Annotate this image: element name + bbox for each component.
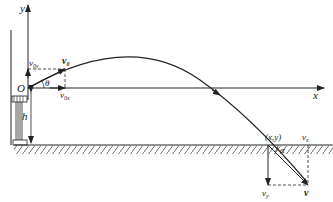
trajectory-direction-arrow (212, 90, 220, 95)
v0y-label: v0y (29, 58, 39, 69)
alpha-label: α (280, 145, 285, 155)
landing-point-label: (x,y) (265, 132, 281, 142)
trajectory-curve (28, 57, 307, 182)
x-axis-label: x (312, 89, 318, 101)
landing-vy-label: vy (262, 188, 269, 199)
origin-label: O (17, 82, 25, 94)
landing-vx-label: vx (302, 132, 309, 143)
theta-label: θ (45, 78, 50, 88)
y-axis-label: y (19, 2, 25, 14)
v0-label: v0 (62, 55, 69, 67)
projectile-diagram: y x O v0y v0 θ v0x h (x,y) vx α vy v (0, 0, 333, 202)
theta-arc (42, 81, 44, 88)
landing-v-label: v (304, 187, 309, 198)
v0x-label: v0x (60, 90, 70, 101)
height-label: h (22, 110, 28, 122)
ground (14, 145, 333, 154)
